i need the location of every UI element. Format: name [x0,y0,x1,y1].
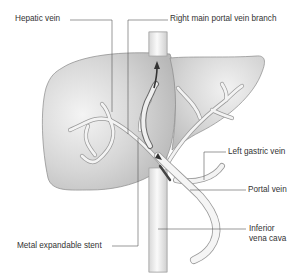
label-inferior-vena-cava-line1: Inferior [249,224,274,234]
label-metal-expandable-stent: Metal expandable stent [17,241,102,251]
label-portal-vein: Portal vein [248,185,287,195]
label-hepatic-vein: Hepatic vein [15,14,60,24]
label-left-gastric-vein: Left gastric vein [228,147,285,157]
label-inferior-vena-cava-line2: vena cava [249,234,286,244]
ivc-upper-segment [149,32,167,56]
label-right-main-portal-vein-branch: Right main portal vein branch [170,14,277,24]
liver-left-lobe [170,56,264,150]
ivc-lower-segment [149,168,167,272]
